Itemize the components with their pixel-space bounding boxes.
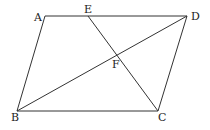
- label-b: B: [11, 111, 19, 124]
- label-e: E: [84, 3, 92, 16]
- segment-ec: [88, 16, 158, 111]
- label-c: C: [158, 111, 166, 124]
- label-a: A: [33, 11, 43, 24]
- label-f: F: [112, 58, 120, 71]
- segment-ab: [17, 16, 45, 111]
- label-d: D: [191, 10, 200, 23]
- segment-bd: [17, 16, 187, 111]
- geometry-diagram: A E D B C F: [0, 0, 210, 130]
